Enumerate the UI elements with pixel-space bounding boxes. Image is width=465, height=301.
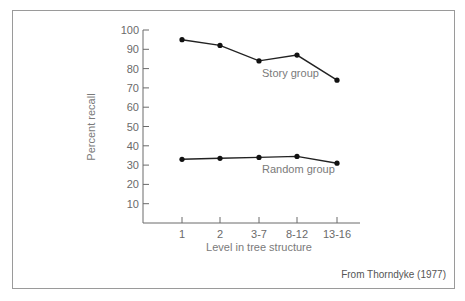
y-axis-title: Percent recall bbox=[85, 93, 97, 160]
y-tick-label: 80 bbox=[127, 63, 139, 75]
y-tick-label: 90 bbox=[127, 43, 139, 55]
data-point bbox=[294, 52, 299, 57]
series-group bbox=[179, 37, 339, 166]
line-chart: 102030405060708090100 123-78-1213-16 Per… bbox=[0, 0, 465, 301]
data-point bbox=[294, 154, 299, 159]
y-axis: 102030405060708090100 bbox=[121, 24, 149, 223]
data-point bbox=[256, 58, 261, 63]
y-tick-label: 20 bbox=[127, 178, 139, 190]
x-tick-label: 2 bbox=[217, 228, 223, 240]
data-point bbox=[256, 155, 261, 160]
data-point bbox=[179, 37, 184, 42]
data-point bbox=[334, 78, 339, 83]
story-group-label: Story group bbox=[262, 67, 319, 79]
y-tick-label: 40 bbox=[127, 140, 139, 152]
x-tick-label: 1 bbox=[179, 228, 185, 240]
x-axis-title: Level in tree structure bbox=[206, 241, 312, 253]
y-tick-label: 30 bbox=[127, 159, 139, 171]
y-tick-label: 100 bbox=[121, 24, 139, 36]
y-tick-label: 60 bbox=[127, 101, 139, 113]
data-point bbox=[217, 43, 222, 48]
x-tick-label: 3-7 bbox=[251, 228, 267, 240]
y-tick-label: 10 bbox=[127, 198, 139, 210]
x-tick-label: 13-16 bbox=[323, 228, 351, 240]
data-point bbox=[179, 157, 184, 162]
data-point bbox=[217, 156, 222, 161]
random-group-label: Random group bbox=[262, 163, 335, 175]
x-tick-label: 8-12 bbox=[286, 228, 308, 240]
data-point bbox=[334, 161, 339, 166]
y-tick-label: 70 bbox=[127, 82, 139, 94]
source-credit: From Thorndyke (1977) bbox=[341, 269, 446, 280]
y-tick-label: 50 bbox=[127, 121, 139, 133]
x-axis: 123-78-1213-16 bbox=[143, 217, 360, 240]
